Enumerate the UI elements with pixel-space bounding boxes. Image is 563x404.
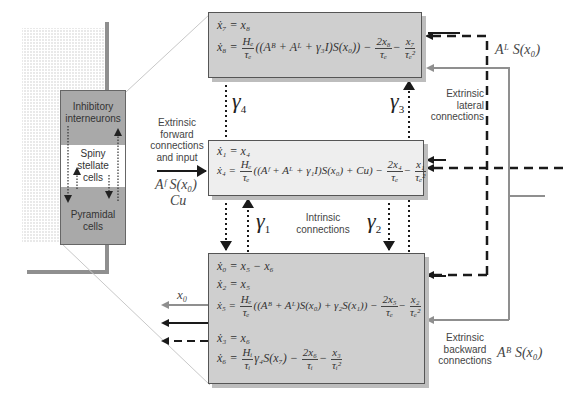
fraction: 2x₄τₑ xyxy=(387,159,403,183)
cortex-column: Inhibitory interneurons Spiny stellate c… xyxy=(60,90,126,245)
fraction: Hₑτₑ xyxy=(240,294,253,318)
eq-body: γ₄S(x₇) − xyxy=(254,351,298,365)
eq-lhs: ẋ₈ = xyxy=(217,40,238,54)
eq-body: ((Aᶠ + Aᴸ + γ₁I)S(x₀) + Cu) − xyxy=(253,164,382,176)
gamma-4-label: γ4 xyxy=(232,88,246,115)
fraction: x₇τₑ² xyxy=(405,36,416,60)
fraction: x₁τₑ² xyxy=(415,159,426,183)
gamma-3-label: γ3 xyxy=(390,88,404,115)
eq-lhs: ẋ₅ = xyxy=(217,299,236,311)
output-x0-label: x₀ xyxy=(177,287,187,303)
fraction: 2x₆τᵢ xyxy=(302,347,318,371)
extrinsic-lateral-label: Extrinsic lateral connections xyxy=(430,88,484,123)
exogenous-input-term: Cu xyxy=(170,193,186,209)
stellate-equation-box: ẋ₁ = x₄ ẋ₄ = Hₑτₑ((Aᶠ + Aᴸ + γ₁I)S(x₀) +… xyxy=(208,140,424,196)
equation-x0: ẋ₀ = x₅ − x₆ xyxy=(217,259,274,274)
fraction: 2x₈τₑ xyxy=(375,36,391,60)
eq-lhs: ẋ₆ = xyxy=(217,351,238,365)
equation-x6: ẋ₆ = Hᵢτᵢγ₄S(x₇) − 2x₆τᵢ− x₃τᵢ² xyxy=(217,347,343,371)
fraction: Hₑτₑ xyxy=(242,36,255,60)
equation-x4: ẋ₄ = Hₑτₑ((Aᶠ + Aᴸ + γ₁I)S(x₀) + Cu) − 2… xyxy=(217,159,427,183)
eq-lhs: ẋ₄ = xyxy=(217,164,236,176)
equation-x5: ẋ₅ = Hₑτₑ((Aᴮ + Aᴸ)S(x₀) + γ₂S(x₁)) − 2x… xyxy=(217,294,422,318)
inhibitory-equation-box: ẋ₇ = x₈ ẋ₈ = Hₑτₑ((Aᴮ + Aᴸ + γ₃I)S(x₀)) … xyxy=(208,12,422,78)
intrinsic-connections-label: Intrinsic connections xyxy=(288,212,358,235)
gamma-2-label: γ2 xyxy=(367,208,381,235)
equation-x3: ẋ₃ = x₆ xyxy=(217,331,250,346)
fraction: Hₑτₑ xyxy=(240,159,253,183)
pyramidal-equation-box: ẋ₀ = x₅ − x₆ ẋ₂ = x₅ ẋ₅ = Hₑτₑ((Aᴮ + Aᴸ)… xyxy=(208,253,425,384)
fraction: x₂τₑ² xyxy=(410,294,421,318)
extrinsic-backward-label: Extrinsic backward connections xyxy=(436,332,494,367)
lateral-term: Aᴸ S(x₀) xyxy=(495,42,540,58)
eq-body: ((Aᴮ + Aᴸ + γ₃I)S(x₀)) − xyxy=(255,40,371,54)
layer-connection-arrows xyxy=(61,91,126,245)
equation-x7: ẋ₇ = x₈ xyxy=(217,18,250,33)
fraction: Hᵢτᵢ xyxy=(242,347,254,371)
fraction: x₃τᵢ² xyxy=(331,347,342,371)
gamma-1-label: γ1 xyxy=(256,208,270,235)
equation-x8: ẋ₈ = Hₑτₑ((Aᴮ + Aᴸ + γ₃I)S(x₀)) − 2x₈τₑ−… xyxy=(217,36,416,60)
equation-x2: ẋ₂ = x₅ xyxy=(217,277,250,292)
backward-term: Aᴮ S(x₀) xyxy=(497,345,542,361)
fraction: 2x₅τₑ xyxy=(381,294,397,318)
equation-x1: ẋ₁ = x₄ xyxy=(217,144,250,159)
eq-body: ((Aᴮ + Aᴸ)S(x₀) + γ₂S(x₁)) − xyxy=(253,299,377,311)
forward-input-term: Aᶠ S(x₀) xyxy=(155,177,197,193)
extrinsic-forward-label: Extrinsic forward connections and input xyxy=(146,117,208,163)
